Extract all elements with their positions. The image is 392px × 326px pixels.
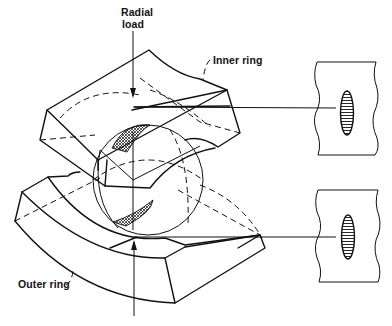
bearing-diagram: Radial load Inner ring bbox=[0, 0, 392, 326]
inner-ring bbox=[40, 50, 240, 188]
ball bbox=[93, 125, 203, 235]
reaction-load-arrow-icon bbox=[131, 240, 137, 316]
inner-contact-area bbox=[112, 125, 150, 152]
inner-leader-line bbox=[134, 107, 336, 108]
outer-ring-contact-inset bbox=[315, 190, 380, 282]
inner-ring-label: Inner ring bbox=[203, 54, 262, 80]
svg-text:Radial: Radial bbox=[121, 6, 153, 18]
radial-load-label: Radial load bbox=[121, 6, 153, 30]
svg-text:Outer ring: Outer ring bbox=[18, 278, 70, 290]
inner-ring-contact-inset bbox=[314, 62, 378, 155]
outer-ring-label: Outer ring bbox=[18, 270, 73, 290]
svg-text:load: load bbox=[122, 18, 144, 30]
radial-load-arrow-icon bbox=[130, 31, 136, 98]
svg-text:Inner ring: Inner ring bbox=[213, 54, 262, 66]
